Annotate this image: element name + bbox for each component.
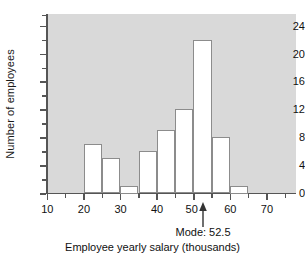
y-major-tick	[40, 81, 46, 83]
y-minor-tick	[42, 95, 46, 97]
y-tick-label: 16	[283, 75, 305, 87]
x-tick-label: 10	[32, 203, 62, 215]
x-tick-label: 40	[142, 203, 172, 215]
x-major-tick	[47, 194, 49, 200]
y-minor-tick	[42, 68, 46, 70]
histogram-bar	[175, 109, 193, 193]
x-major-tick	[120, 194, 122, 200]
x-tick-label: 60	[215, 203, 245, 215]
histogram-bar	[102, 158, 120, 193]
y-minor-tick	[42, 15, 46, 17]
y-minor-tick	[42, 40, 46, 42]
mode-annotation-label: Mode: 52.5	[175, 226, 230, 238]
y-major-tick	[40, 193, 46, 195]
y-minor-tick	[42, 151, 46, 153]
x-minor-tick	[65, 194, 67, 198]
y-major-tick	[40, 137, 46, 139]
y-minor-tick	[42, 179, 46, 181]
y-axis-title: Number of employees	[0, 14, 20, 194]
histogram-bar	[84, 144, 102, 193]
x-tick-label: 30	[106, 203, 136, 215]
x-major-tick	[156, 194, 158, 200]
histogram-bar	[120, 186, 138, 194]
x-minor-tick	[138, 194, 140, 198]
histogram-bar	[157, 130, 175, 193]
y-major-tick	[40, 26, 46, 28]
x-major-tick	[266, 194, 268, 200]
mode-arrow-icon	[197, 201, 209, 227]
y-minor-tick	[42, 123, 46, 125]
histogram-bar	[212, 137, 230, 193]
x-tick-label: 20	[69, 203, 99, 215]
x-minor-tick	[248, 194, 250, 198]
x-major-tick	[230, 194, 232, 200]
x-tick-label: 70	[252, 203, 282, 215]
y-tick-label: 0	[283, 187, 305, 199]
x-axis-title: Employee yearly salary (thousands)	[0, 241, 305, 253]
histogram-bar	[230, 186, 248, 194]
y-tick-label: 24	[283, 20, 305, 32]
x-minor-tick	[175, 194, 177, 198]
y-major-tick	[40, 54, 46, 56]
histogram-figure: Number of employees 0 4 8 12 16 20 24	[0, 0, 305, 258]
y-major-tick	[40, 109, 46, 111]
x-minor-tick	[211, 194, 213, 198]
y-axis-title-text: Number of employees	[4, 49, 16, 159]
y-tick-label: 12	[283, 103, 305, 115]
histogram-bar	[193, 40, 211, 194]
y-tick-label: 4	[283, 159, 305, 171]
x-major-tick	[193, 194, 195, 200]
x-major-tick	[83, 194, 85, 200]
y-tick-label: 8	[283, 131, 305, 143]
x-minor-tick	[102, 194, 104, 198]
y-major-tick	[40, 165, 46, 167]
y-tick-label: 20	[283, 48, 305, 60]
histogram-bar	[139, 151, 157, 193]
y-axis-line	[46, 14, 48, 194]
x-minor-tick	[285, 194, 287, 198]
